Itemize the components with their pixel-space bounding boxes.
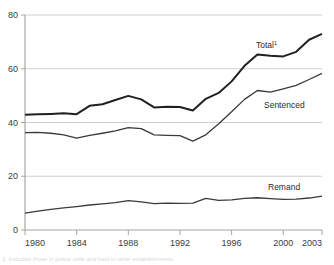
y-tick-label-60: 60 (8, 64, 18, 74)
x-tick-label-2003: 2003 (302, 238, 322, 248)
x-tick-label-1988: 1988 (118, 238, 138, 248)
chart-footnote: 1. Includes those in police cells and he… (2, 256, 174, 263)
x-tick-marks (25, 230, 322, 235)
series-line-remand (25, 196, 322, 213)
y-axis-labels: 80 60 40 20 0 (8, 10, 18, 235)
chart-container: 80 60 40 20 0 1980 1984 1988 1992 1996 2… (0, 0, 334, 265)
y-tick-label-40: 40 (8, 118, 18, 128)
gridlines (25, 15, 322, 176)
line-chart: 80 60 40 20 0 1980 1984 1988 1992 1996 2… (0, 0, 334, 265)
series-labels: Total1 Sentenced Remand (256, 40, 305, 192)
x-tick-label-2000: 2000 (273, 238, 293, 248)
y-tick-label-0: 0 (13, 225, 18, 235)
series-label-remand: Remand (268, 182, 300, 192)
x-tick-label-1980: 1980 (25, 238, 45, 248)
y-tick-label-20: 20 (8, 171, 18, 181)
series-label-total: Total1 (256, 40, 277, 50)
x-tick-label-1996: 1996 (222, 238, 242, 248)
y-tick-label-80: 80 (8, 10, 18, 20)
series-label-sentenced: Sentenced (264, 100, 305, 110)
x-tick-label-1992: 1992 (170, 238, 190, 248)
series-label-total-superscript: 1 (274, 40, 277, 46)
x-axis-labels: 1980 1984 1988 1992 1996 2000 2003 (25, 238, 322, 248)
x-tick-label-1984: 1984 (67, 238, 87, 248)
series-label-total-text: Total (256, 40, 274, 50)
